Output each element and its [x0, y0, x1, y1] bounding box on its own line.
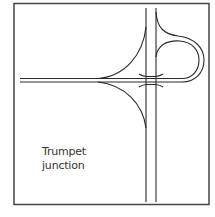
diagram-svg	[0, 0, 215, 217]
slip-road-upper-left	[98, 27, 146, 79]
trumpet-junction-diagram: Trumpet junction	[0, 0, 215, 217]
bridge-tick-bottom-left	[139, 85, 146, 88]
bridge-tick-top-left	[139, 74, 146, 77]
label-line-1: Trumpet	[42, 145, 86, 159]
diagram-frame	[14, 4, 209, 205]
bridge-tick-bottom-right	[156, 85, 163, 88]
loop-ramp-outer	[156, 12, 204, 82]
label-line-2: junction	[42, 159, 86, 173]
loop-ramp-inner	[156, 41, 199, 79]
diagram-label: Trumpet junction	[42, 145, 86, 173]
slip-road-lower-left	[98, 82, 146, 128]
bridge-tick-top-right	[156, 74, 163, 77]
